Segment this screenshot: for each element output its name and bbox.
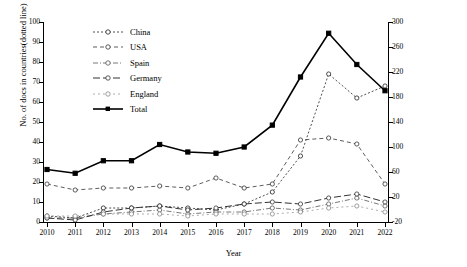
y-axis-right-tick-label: 180 <box>392 93 403 101</box>
data-point <box>158 204 162 208</box>
x-axis-tickmark <box>188 223 189 227</box>
legend-item-label: China <box>130 28 150 37</box>
y-axis-left-tick-label: 50 <box>33 118 41 126</box>
x-axis-tick-label: 2021 <box>349 229 364 237</box>
y-axis-right-tick-label: 60 <box>392 168 400 176</box>
data-point <box>73 214 77 218</box>
x-axis-tick-label: 2016 <box>209 229 224 237</box>
data-point <box>355 62 359 66</box>
data-point <box>298 154 302 158</box>
legend-item-total[interactable]: Total <box>92 102 162 118</box>
data-point <box>327 206 331 210</box>
data-point <box>214 206 218 210</box>
data-point <box>73 171 77 175</box>
legend-item-england[interactable]: England <box>92 86 162 102</box>
x-axis-tickmark <box>244 223 245 227</box>
data-point <box>129 159 133 163</box>
legend-item-germany[interactable]: Germany <box>92 71 162 87</box>
data-point <box>186 150 190 154</box>
x-axis-tick-label: 2018 <box>265 229 280 237</box>
data-point <box>270 200 274 204</box>
data-point <box>298 210 302 214</box>
y-axis-right-tick-label: 100 <box>392 143 403 151</box>
x-axis-tickmark <box>301 223 302 227</box>
y-axis-right-tick-label: 260 <box>392 43 403 51</box>
data-point <box>186 186 190 190</box>
data-point <box>101 206 105 210</box>
legend-item-label: Germany <box>130 74 162 83</box>
y-axis-left-tick-label: 30 <box>33 158 41 166</box>
x-axis-tick-label: 2019 <box>293 229 308 237</box>
data-point <box>242 202 246 206</box>
data-point <box>298 202 302 206</box>
data-point <box>186 214 190 218</box>
data-point <box>383 204 387 208</box>
data-point <box>214 151 218 155</box>
data-point <box>327 31 331 35</box>
x-axis-tick-label: 2010 <box>40 229 55 237</box>
legend-key-icon <box>92 27 124 37</box>
legend-key-icon <box>92 104 124 114</box>
data-point <box>355 196 359 200</box>
y-axis-left-tick-label: 100 <box>29 18 40 26</box>
x-axis-tickmark <box>216 223 217 227</box>
data-point <box>383 210 387 214</box>
legend-item-usa[interactable]: USA <box>92 40 162 56</box>
data-point <box>270 182 274 186</box>
y-axis-left-tick-label: 0 <box>36 218 40 226</box>
x-axis-tickmark <box>385 223 386 227</box>
y-axis-right-tick-label: 20 <box>392 193 400 201</box>
data-point <box>129 212 133 216</box>
data-point <box>101 159 105 163</box>
y-axis-right-tick-label: 140 <box>392 118 403 126</box>
y-axis-left-tick-label: 90 <box>33 38 41 46</box>
data-point <box>242 212 246 216</box>
data-point <box>101 186 105 190</box>
x-axis-tickmark <box>132 223 133 227</box>
y-axis-left-tick-label: 10 <box>33 198 41 206</box>
data-point <box>270 212 274 216</box>
y-axis-left-tick-label: 60 <box>33 98 41 106</box>
data-point <box>270 123 274 127</box>
y-axis-right-tick-label: 220 <box>392 68 403 76</box>
legend-item-label: Spain <box>130 59 149 68</box>
data-point <box>129 206 133 210</box>
chart-legend: ChinaUSASpainGermanyEnglandTotal <box>92 24 162 117</box>
x-axis-tick-label: 2017 <box>237 229 252 237</box>
x-axis-tick-label: 2013 <box>124 229 139 237</box>
y-axis-left-line <box>43 22 44 222</box>
data-point <box>158 184 162 188</box>
data-point <box>327 136 331 140</box>
x-axis-tick-label: 2012 <box>96 229 111 237</box>
data-point <box>214 176 218 180</box>
legend-item-spain[interactable]: Spain <box>92 55 162 71</box>
x-axis-tickmark <box>357 223 358 227</box>
x-axis-tickmark <box>103 223 104 227</box>
data-point <box>355 204 359 208</box>
data-point <box>383 84 387 88</box>
data-point <box>383 200 387 204</box>
legend-key-icon <box>92 89 124 99</box>
data-point <box>101 212 105 216</box>
x-axis-tick-label: 2015 <box>180 229 195 237</box>
x-axis-tick-label: 2020 <box>321 229 336 237</box>
data-point <box>242 186 246 190</box>
data-point <box>355 142 359 146</box>
x-axis-tickmark <box>75 223 76 227</box>
series-germany <box>45 192 387 222</box>
legend-key-icon <box>92 42 124 52</box>
x-axis-tickmark <box>47 223 48 227</box>
data-point <box>214 212 218 216</box>
y-axis-left-tick-label: 20 <box>33 178 41 186</box>
data-point <box>383 182 387 186</box>
legend-key-icon <box>92 58 124 68</box>
y-axis-left-tick-label: 80 <box>33 58 41 66</box>
data-point <box>73 188 77 192</box>
x-axis-tick-label: 2011 <box>68 229 83 237</box>
data-point <box>383 89 387 93</box>
data-point <box>45 214 49 218</box>
y-axis-left-tick-label: 70 <box>33 78 41 86</box>
y-axis-left-tick-label: 40 <box>33 138 41 146</box>
legend-item-china[interactable]: China <box>92 24 162 40</box>
x-axis-title: Year <box>0 248 467 258</box>
